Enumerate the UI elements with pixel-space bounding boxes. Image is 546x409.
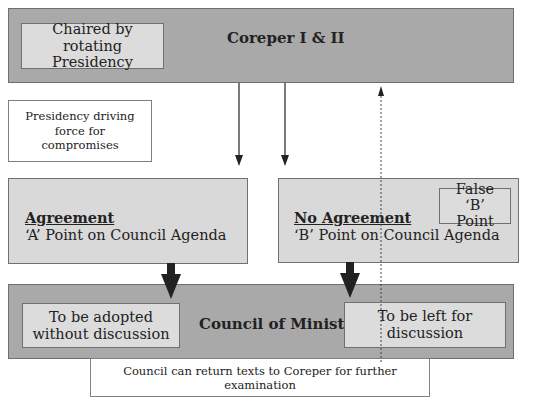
arrow-down-agreement-icon <box>235 83 243 166</box>
thick-arrow-no-agreement-to-council-icon <box>340 262 360 298</box>
arrows-overlay <box>0 0 546 409</box>
arrow-down-no-agreement-icon <box>281 83 289 166</box>
dotted-return-arrow-icon <box>378 86 384 362</box>
thick-arrow-agreement-to-council-icon <box>161 263 181 299</box>
